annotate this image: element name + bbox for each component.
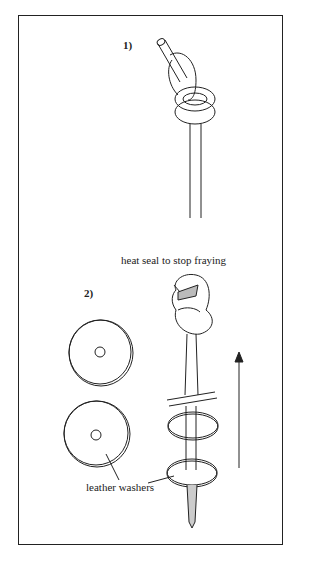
knot-step1 [156, 37, 215, 218]
step-1-label: 1) [123, 39, 132, 51]
leather-washers-annotation: leather washers [86, 481, 154, 493]
heat-seal-annotation: heat seal to stop fraying [121, 254, 226, 266]
direction-arrow [235, 352, 243, 468]
step-2-label: 2) [84, 287, 93, 299]
knot-step2 [167, 274, 218, 528]
washer-top [69, 320, 133, 386]
washer-bottom [64, 401, 130, 467]
leader-line-washer-left [106, 454, 119, 480]
